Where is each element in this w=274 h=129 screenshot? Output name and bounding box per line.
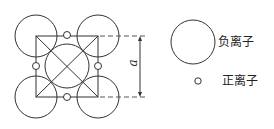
arrow-down-icon [138, 92, 142, 97]
arrow-up-icon [138, 36, 142, 41]
legend-anion-label: 负离子 [218, 34, 254, 49]
ionic-lattice-diagram: a 负离子 正离子 [0, 0, 274, 129]
cation-bottom [64, 94, 71, 101]
cation-top [64, 32, 71, 39]
legend-cation-label: 正离子 [222, 73, 258, 88]
cation-right [95, 63, 102, 70]
cation-left [33, 63, 40, 70]
legend-cation-symbol [195, 78, 201, 84]
legend-anion-symbol [171, 20, 215, 64]
dimension-label-a: a [126, 59, 140, 66]
